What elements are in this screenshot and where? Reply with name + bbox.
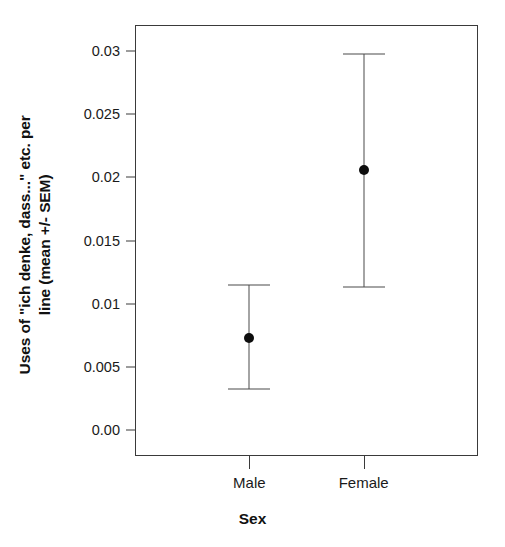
error-bar-cap-lower (228, 389, 270, 390)
y-tick-label: 0.03 (68, 43, 120, 59)
y-tick-mark (126, 303, 135, 304)
x-axis-title: Sex (0, 510, 505, 528)
y-tick-mark (126, 366, 135, 367)
y-axis-title-line-2: line (mean +/- SEM) (36, 175, 53, 316)
y-tick-mark (126, 51, 135, 52)
error-bar-cap-lower (343, 287, 385, 288)
x-tick-label-female: Female (339, 474, 389, 491)
y-axis-title: Uses of "ich denke, dass..." etc. per li… (0, 0, 70, 490)
data-point-male (244, 333, 254, 343)
x-tick-mark (364, 456, 365, 469)
y-tick-mark (126, 114, 135, 115)
y-tick-label: 0.005 (68, 359, 120, 375)
y-tick-mark (126, 240, 135, 241)
plot-area (135, 25, 478, 456)
x-tick-mark (249, 456, 250, 469)
y-tick-label: 0.01 (68, 296, 120, 312)
y-tick-mark (126, 429, 135, 430)
data-point-female (359, 165, 369, 175)
y-tick-label: 0.015 (68, 233, 120, 249)
x-tick-label-male: Male (233, 474, 266, 491)
y-axis-title-line-1: Uses of "ich denke, dass..." etc. per (16, 115, 33, 374)
y-tick-mark (126, 177, 135, 178)
error-bar-cap-upper (228, 284, 270, 285)
y-tick-label: 0.00 (68, 422, 120, 438)
y-tick-label: 0.02 (68, 169, 120, 185)
error-bar-cap-upper (343, 53, 385, 54)
y-tick-label: 0.025 (68, 106, 120, 122)
chart-figure: Uses of "ich denke, dass..." etc. per li… (0, 0, 505, 547)
